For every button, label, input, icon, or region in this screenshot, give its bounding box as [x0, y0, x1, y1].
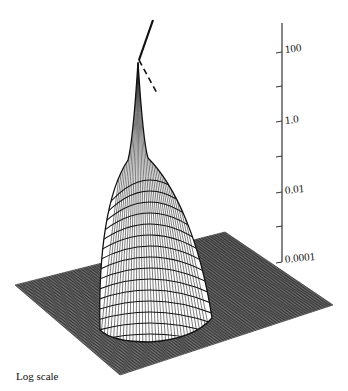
z-tick-label-100: 100 — [284, 42, 302, 55]
scale-caption: Log scale — [16, 370, 58, 382]
surface-plot — [0, 0, 348, 391]
peak-pointer-line — [139, 20, 158, 95]
z-axis — [276, 23, 282, 263]
z-tick-label-1: 1.0 — [284, 114, 299, 126]
z-tick-label-0-01: 0.01 — [284, 183, 304, 196]
